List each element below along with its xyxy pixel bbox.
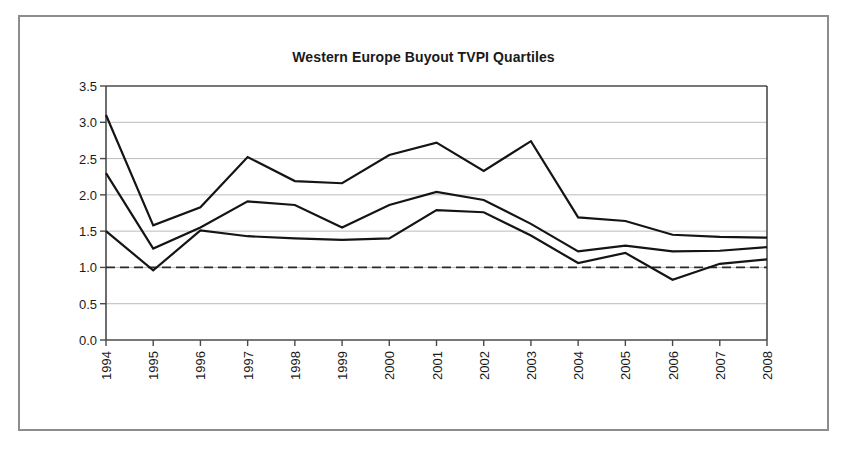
x-tick-label: 2005 — [618, 351, 633, 380]
x-tick-label: 2008 — [760, 351, 775, 380]
x-tick-label: 2000 — [382, 351, 397, 380]
x-tick-label: 1995 — [146, 351, 161, 380]
y-tick-label: 3.5 — [79, 79, 97, 94]
tick-marks-group — [100, 86, 767, 346]
x-tick-label: 2003 — [523, 351, 538, 380]
x-tick-label: 2001 — [429, 351, 444, 380]
x-tick-label: 2002 — [476, 351, 491, 380]
series-lines-group — [106, 115, 767, 280]
x-tick-label: 2007 — [712, 351, 727, 380]
x-tick-label: 1994 — [99, 351, 114, 380]
y-tick-label: 1.0 — [79, 260, 97, 275]
series-line — [106, 115, 767, 238]
y-tick-label: 0.5 — [79, 296, 97, 311]
figure-frame: Western Europe Buyout TVPI Quartiles 0.0… — [18, 15, 829, 431]
x-tick-label: 2006 — [665, 351, 680, 380]
y-tick-label: 1.5 — [79, 224, 97, 239]
plot-wrapper: 0.00.51.01.52.02.53.03.5 199419951996199… — [20, 17, 831, 433]
line-chart-svg — [106, 86, 767, 340]
y-tick-label: 2.5 — [79, 151, 97, 166]
x-tick-label: 1998 — [287, 351, 302, 380]
x-tick-label: 1999 — [335, 351, 350, 380]
plot-area: 0.00.51.01.52.02.53.03.5 199419951996199… — [106, 86, 767, 340]
x-tick-label: 1997 — [240, 351, 255, 380]
y-tick-label: 3.0 — [79, 115, 97, 130]
x-tick-label: 2004 — [571, 351, 586, 380]
x-tick-label: 1996 — [193, 351, 208, 380]
y-tick-label: 0.0 — [79, 333, 97, 348]
y-tick-label: 2.0 — [79, 187, 97, 202]
series-line — [106, 210, 767, 280]
series-line — [106, 173, 767, 251]
